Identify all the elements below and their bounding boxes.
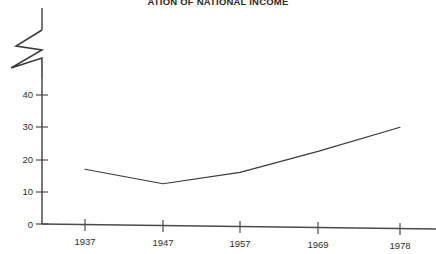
y-tick-label-10: 10 — [22, 186, 33, 197]
data-series-line — [85, 127, 400, 183]
x-tick-label-1937: 1937 — [74, 236, 95, 247]
x-axis-line — [42, 224, 436, 229]
x-tick-label-1947: 1947 — [152, 237, 173, 248]
x-tick-label-1969: 1969 — [307, 239, 328, 250]
line-chart-plot: 40 30 20 10 0 1937 1947 1957 1969 1978 — [0, 0, 436, 254]
y-tick-label-40: 40 — [22, 89, 33, 100]
axis-break-zigzag-icon — [11, 30, 42, 78]
chart-screenshot: ATION OF NATIONAL INCOME 40 30 20 10 0 1… — [0, 0, 436, 254]
y-tick-label-20: 20 — [22, 154, 33, 165]
x-tick-label-1978: 1978 — [389, 240, 410, 251]
y-tick-label-30: 30 — [22, 121, 33, 132]
x-tick-label-1957: 1957 — [229, 238, 250, 249]
y-tick-label-0: 0 — [28, 219, 33, 230]
